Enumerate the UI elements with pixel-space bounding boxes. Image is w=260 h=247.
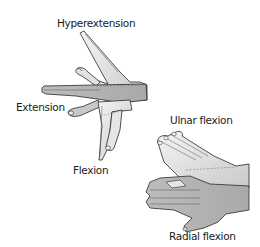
- label-flexion: Flexion: [73, 164, 108, 176]
- flexion-hand: [98, 100, 132, 160]
- label-radial-flexion: Radial flexion: [169, 230, 236, 242]
- label-extension: Extension: [16, 101, 65, 113]
- wrist-motion-diagram: Hyperextension Extension Flexion Ulnar f…: [0, 0, 260, 247]
- label-hyperextension: Hyperextension: [57, 17, 135, 29]
- label-ulnar-flexion: Ulnar flexion: [170, 114, 233, 126]
